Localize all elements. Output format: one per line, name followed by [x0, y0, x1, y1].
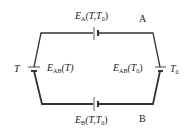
emf-args-end: ) [105, 10, 108, 21]
emf-args: (T,T [85, 114, 101, 125]
bottom-wire-right [98, 71, 160, 104]
cold-junction-label: T0 [170, 64, 179, 75]
emf-args-end: ) [104, 114, 107, 125]
hot-junction-label: T [14, 64, 20, 74]
top-emf-label: EA(T,T0) [75, 11, 108, 22]
emf-args: (T) [61, 62, 73, 73]
left-junction-emf-label: EAB(T) [47, 63, 74, 74]
node-a-label: A [139, 14, 146, 24]
bottom-emf-label: EB(T,T0) [75, 115, 108, 126]
right-junction-emf-label: EAB(T0) [113, 63, 143, 74]
bottom-wire-left [34, 71, 93, 104]
temperature-subscript: 0 [176, 69, 179, 75]
node-b-label: B [139, 114, 146, 124]
emf-args: (T,T [85, 10, 101, 21]
temperature-symbol: T [14, 63, 20, 74]
emf-args-end: ) [139, 62, 142, 73]
